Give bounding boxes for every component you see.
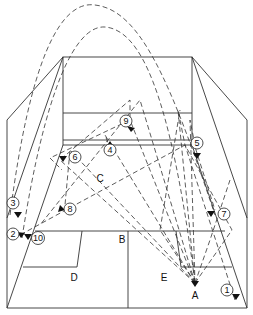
svg-text:10: 10 bbox=[33, 233, 43, 243]
label-e: E bbox=[161, 272, 168, 283]
arrow-icon bbox=[14, 212, 22, 218]
svg-text:8: 8 bbox=[67, 204, 72, 214]
arrowheads bbox=[14, 126, 240, 300]
shot-marker-10: 10 bbox=[32, 232, 45, 245]
shot-marker-8: 8 bbox=[64, 203, 76, 215]
shot-paths bbox=[10, 5, 235, 300]
arrow-icon bbox=[191, 281, 199, 287]
shot-marker-2: 2 bbox=[7, 228, 19, 240]
shot-marker-1: 1 bbox=[221, 284, 233, 296]
svg-text:9: 9 bbox=[123, 116, 128, 126]
label-c: C bbox=[96, 173, 103, 184]
svg-text:2: 2 bbox=[10, 229, 15, 239]
shot-marker-4: 4 bbox=[104, 144, 116, 156]
court-diagram: 1 2 3 4 5 6 7 8 9 10 A B C D E bbox=[0, 0, 253, 315]
shot-marker-9: 9 bbox=[120, 115, 132, 127]
svg-text:6: 6 bbox=[72, 152, 77, 162]
svg-text:1: 1 bbox=[224, 285, 229, 295]
label-a: A bbox=[192, 290, 199, 301]
label-b: B bbox=[119, 234, 126, 245]
svg-text:7: 7 bbox=[221, 209, 226, 219]
svg-text:3: 3 bbox=[10, 198, 15, 208]
arrow-icon bbox=[59, 156, 67, 162]
position-labels: A B C D E bbox=[70, 173, 198, 301]
arrow-icon bbox=[232, 294, 240, 300]
svg-text:4: 4 bbox=[107, 145, 112, 155]
shot-marker-3: 3 bbox=[7, 197, 19, 209]
shot-marker-6: 6 bbox=[69, 151, 81, 163]
arrow-icon bbox=[193, 153, 201, 159]
shot-marker-5: 5 bbox=[191, 137, 203, 149]
label-d: D bbox=[70, 272, 77, 283]
court-walls bbox=[7, 57, 247, 308]
shot-marker-7: 7 bbox=[218, 208, 230, 220]
svg-text:5: 5 bbox=[194, 138, 199, 148]
